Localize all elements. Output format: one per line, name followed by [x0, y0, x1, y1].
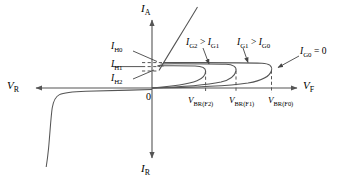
breakover-droplines-group [206, 71, 272, 94]
label-ig0-annotation: IG0 = 0 [300, 47, 326, 59]
label-vbrf1: VBR(F1) [229, 96, 254, 107]
axis-label-vr: VR [7, 80, 19, 94]
label-vbrf2: VBR(F2) [188, 96, 213, 107]
label-ig2-annotation: IG2 > IG1 [186, 38, 219, 50]
leader-ih0 [133, 51, 157, 62]
reverse-curve-group [46, 90, 152, 167]
origin-label: 0 [146, 92, 151, 102]
leader-lines-group [133, 48, 299, 79]
leader-ig0 [278, 56, 299, 68]
leader-ig1 [243, 48, 248, 63]
label-vbrf0: VBR(F0) [268, 96, 293, 107]
label-ih0: IH0 [111, 42, 123, 54]
label-ih2: IH2 [111, 74, 123, 86]
label-ih1: IH1 [111, 60, 123, 72]
axis-label-vf: VF [303, 80, 314, 94]
axis-label-ir: IR [141, 163, 150, 177]
axis-label-ia: IA [141, 3, 150, 17]
curve-ig0 [152, 63, 272, 88]
scr-characteristic-figure: IA IR VR VF 0 IH0 IH1 IH2 IG2 > IG1 IG1 … [0, 0, 346, 184]
characteristic-curves-svg [0, 0, 346, 184]
curve-reverse-breakdown [46, 90, 152, 167]
curve-ig1 [152, 64, 236, 88]
leader-ig2 [203, 48, 209, 64]
label-ig1-annotation: IG1 > IG0 [237, 38, 270, 50]
